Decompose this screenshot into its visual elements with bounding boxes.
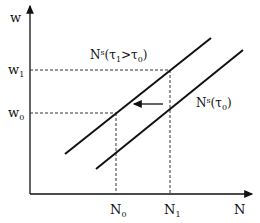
w0-label: w0: [8, 105, 24, 122]
curve-old-label: Ns(τ0): [196, 96, 232, 112]
w1-label: w1: [8, 62, 24, 79]
x-axis-label: N: [234, 202, 245, 217]
n1-label: N1: [164, 202, 180, 219]
n0-label: N0: [110, 202, 126, 219]
y-axis-label: w: [10, 10, 21, 25]
curve-new-label: Ns(τ1>τ0): [90, 48, 148, 64]
labor-supply-diagram: w N w1 w0 N0 N1 Ns(τ1>τ0) Ns(τ0): [0, 0, 260, 223]
